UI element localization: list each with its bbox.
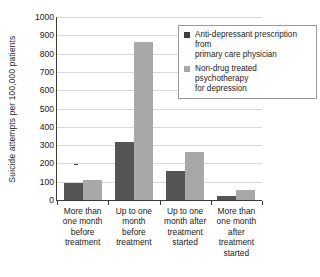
x-axis-tick-mark (108, 201, 109, 205)
bar-chart: Suicide attempts per 100,000 patients 10… (0, 0, 320, 277)
bar (236, 190, 255, 200)
x-axis-category-labels: More thanone monthbeforetreatmentUp to o… (57, 206, 262, 274)
bar-group (57, 17, 108, 200)
x-axis-category-label: More thanone monthaftertreatmentstarted (211, 206, 262, 258)
x-axis-tick-mark (262, 201, 263, 205)
x-axis-tick-mark (211, 201, 212, 205)
x-axis-category-label: Up to onemonth aftertreatmentstarted (160, 206, 211, 248)
y-axis-tick-label: 800 (20, 49, 54, 59)
bar (64, 183, 83, 200)
bar (115, 142, 134, 200)
y-axis-tick-label: 900 (20, 30, 54, 40)
x-axis-category-label: Up to onemonthbeforetreatment (108, 206, 159, 248)
y-axis-tick-label: 700 (20, 67, 54, 77)
y-axis-tick-label: 0 (20, 195, 54, 205)
bar (134, 42, 153, 200)
bar (166, 171, 185, 200)
legend-label-series-a: Anti-depressant prescription fromprimary… (195, 30, 312, 60)
y-axis-tick-label: 600 (20, 85, 54, 95)
y-axis-tick-labels: 10009008007006005004003002001000 (18, 17, 54, 200)
y-axis-tick-label: 400 (20, 122, 54, 132)
y-axis-tick-label: 100 (20, 177, 54, 187)
bar (185, 152, 204, 200)
y-axis-tick-label: 300 (20, 140, 54, 150)
bar (217, 196, 236, 200)
x-axis-tick-mark (57, 201, 58, 205)
y-axis-tick-label: 200 (20, 158, 54, 168)
legend-swatch-icon-series-a (184, 32, 190, 38)
legend-label-series-b: Non-drug treated psychotherapyfor depres… (195, 64, 312, 94)
bar-group (108, 17, 159, 200)
y-axis-tick-label: 500 (20, 104, 54, 114)
y-axis-tick-label: 1000 (20, 12, 54, 22)
legend-item-antidepressant: Anti-depressant prescription fromprimary… (184, 30, 312, 60)
x-axis-category-label: More thanone monthbeforetreatment (57, 206, 108, 248)
legend: Anti-depressant prescription fromprimary… (178, 25, 317, 99)
y-axis-title: Suicide attempts per 100,000 patients (7, 14, 17, 204)
bar (83, 180, 102, 200)
legend-swatch-icon-series-b (184, 66, 190, 72)
legend-item-psychotherapy: Non-drug treated psychotherapyfor depres… (184, 64, 312, 94)
x-axis-tick-mark (160, 201, 161, 205)
